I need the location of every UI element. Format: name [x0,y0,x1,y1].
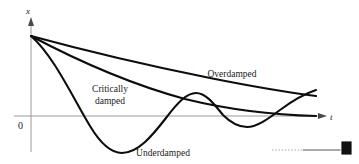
label-overdamped: Overdamped [207,69,256,79]
damped-oscillation-chart: x t 0 Overdamped Critically damped Under… [0,0,359,164]
y-axis-label: x [25,6,30,16]
label-underdamped: Underdamped [136,148,190,158]
drag-handle-square[interactable] [341,141,352,155]
origin-label: 0 [18,120,23,131]
label-critically-damped-line2: damped [95,96,125,106]
chart-background [0,0,359,164]
label-critically-damped-line1: Critically [92,84,128,94]
